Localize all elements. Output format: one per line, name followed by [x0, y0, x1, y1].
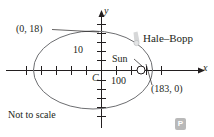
comet-head-icon	[134, 40, 139, 45]
y-axis-label: y	[104, 6, 108, 16]
leader-line-sun	[134, 59, 142, 66]
page-badge: P	[175, 118, 186, 130]
x-axis-tick-label: 100	[111, 76, 126, 86]
x-axis-label: x	[203, 63, 207, 73]
label-right-vertex-point: (183, 0)	[151, 84, 183, 94]
orbit-figure: (0, 18) (183, 0) 10 100 x y C Hale–Bopp …	[0, 0, 214, 137]
sun-label: Sun	[112, 54, 128, 64]
not-to-scale-note: Not to scale	[8, 110, 56, 120]
ellipse-center-label: C	[92, 73, 99, 83]
comet-name-label: Hale–Bopp	[143, 33, 193, 44]
label-top-vertex-point: (0, 18)	[16, 24, 43, 34]
y-axis-tick-label: 10	[73, 45, 83, 55]
sun-marker	[137, 66, 145, 74]
